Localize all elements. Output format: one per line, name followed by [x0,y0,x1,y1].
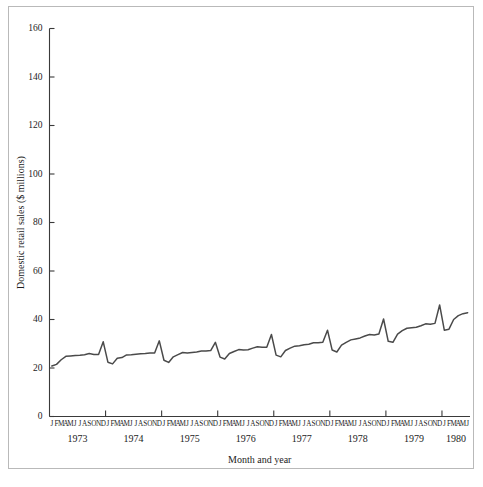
x-axis-year-label: 1977 [292,433,312,444]
x-axis-month-label: J [186,420,189,428]
x-axis-month-label: J [130,420,133,428]
figure-container: 020406080100120140160JFMAMJJASONDJFMAMJJ… [0,0,483,487]
x-axis-month-label: J [50,420,53,428]
x-axis-month-label: D [269,420,274,428]
x-axis-month-label: J [443,420,446,428]
x-axis-year-label: 1974 [124,433,144,444]
x-axis-month-label: J [354,420,357,428]
x-axis-title: Month and year [228,454,292,465]
x-axis-year-label: 1978 [348,433,368,444]
x-axis-year-label: 1973 [68,433,88,444]
x-axis-month-label: J [74,420,77,428]
y-axis-tick-label: 40 [33,314,43,324]
x-axis-month-label: D [101,420,106,428]
x-axis-year-label: 1975 [180,433,200,444]
x-axis-month-label: D [437,420,442,428]
x-axis-month-label: J [242,420,245,428]
x-axis-month-label: J [331,420,334,428]
x-axis-month-label: J [275,420,278,428]
x-axis-year-label: 1980 [446,433,466,444]
y-axis-tick-label: 60 [33,266,43,276]
x-axis-year-label: 1979 [404,433,424,444]
x-axis-month-label: J [106,420,109,428]
y-axis-tick-label: 140 [28,72,43,82]
x-axis-month-label: J [219,420,222,428]
y-axis-tick-label: 100 [28,169,43,179]
line-chart: 020406080100120140160JFMAMJJASONDJFMAMJJ… [0,0,483,487]
x-axis-month-label: D [325,420,330,428]
y-axis-tick-label: 80 [33,217,43,227]
y-axis-tick-label: 0 [38,411,43,421]
x-axis-month-label: D [213,420,218,428]
x-axis-month-label: J [387,420,390,428]
x-axis-month-label: J [466,420,469,428]
x-axis-year-label: 1976 [236,433,256,444]
x-axis-month-label: D [381,420,386,428]
y-axis-title: Domestic retail sales ($ millions) [15,156,27,289]
x-axis-month-label: D [157,420,162,428]
y-axis-tick-label: 120 [28,120,43,130]
x-axis-month-label: J [298,420,301,428]
x-axis-month-label: J [410,420,413,428]
y-axis-tick-label: 160 [28,23,43,33]
y-axis-tick-label: 20 [33,363,43,373]
data-series-line [52,305,468,366]
x-axis-month-label: J [163,420,166,428]
